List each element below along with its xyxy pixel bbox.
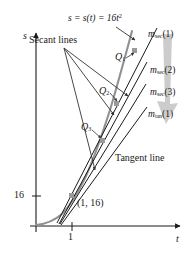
tangent-line-label: Tangent line: [115, 153, 165, 163]
tangent-point-label: (1, 16): [77, 198, 104, 208]
leader-arrow-q1: [126, 53, 134, 58]
point-marker-Q2: [114, 101, 119, 106]
point-label-q1: Q1: [115, 52, 125, 63]
slope-label-msec1: msec(1): [148, 30, 173, 40]
slope-label-msec2: msec(2): [150, 66, 175, 76]
axis-group: [30, 33, 180, 232]
point-label-q2: Q2: [99, 86, 109, 97]
slope-label-msec3: msec(3): [150, 88, 175, 98]
point-marker-P: [69, 193, 74, 198]
secant-tangent-figure: s = s(t) = 16t2 Secant lines Tangent lin…: [0, 0, 191, 255]
x-axis-tick-label: 1: [68, 232, 73, 242]
curve-equation-label: s = s(t) = 16t2: [68, 13, 122, 23]
s-axis-label: s: [23, 31, 27, 41]
leader-arrow-secant-2: [64, 48, 114, 115]
point-marker-Q3: [100, 138, 105, 143]
leader-arrow-secant-3: [64, 48, 95, 170]
y-axis-tick-label: 16: [14, 190, 24, 200]
point-marker-Q1: [132, 48, 137, 53]
secant-lines-label: Secant lines: [29, 35, 77, 45]
t-axis-label: t: [176, 234, 179, 244]
point-label-q3: Q3: [81, 122, 91, 133]
leader-arrow-q3: [92, 130, 101, 138]
tangent-line: [61, 107, 147, 225]
slope-label-mtan1: mtan(1): [148, 110, 173, 120]
